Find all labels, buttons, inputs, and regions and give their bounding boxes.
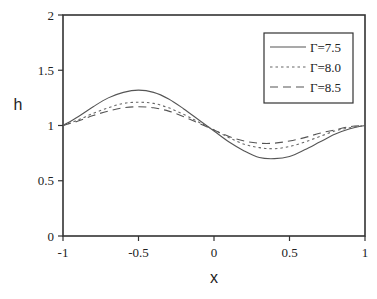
x-tick-label: 0.5 xyxy=(281,245,297,260)
y-tick-label: 0 xyxy=(48,229,55,244)
legend-label: Γ=8.0 xyxy=(310,60,341,75)
y-tick-label: 0.5 xyxy=(38,173,54,188)
y-axis-title: h xyxy=(14,96,23,113)
y-tick-label: 2 xyxy=(48,8,55,23)
x-tick-label: -1 xyxy=(58,245,69,260)
chart: -1-0.500.5100.511.52 x h Γ=7.5Γ=8.0Γ=8.5 xyxy=(0,0,377,299)
legend: Γ=7.5Γ=8.0Γ=8.5 xyxy=(264,33,353,103)
series-line-3 xyxy=(63,107,365,144)
y-tick-label: 1 xyxy=(48,118,55,133)
legend-label: Γ=7.5 xyxy=(310,40,341,55)
x-axis-title: x xyxy=(210,269,218,286)
x-tick-label: 0 xyxy=(211,245,218,260)
x-tick-label: 1 xyxy=(362,245,369,260)
y-tick-label: 1.5 xyxy=(38,63,54,78)
x-tick-label: -0.5 xyxy=(128,245,149,260)
legend-label: Γ=8.5 xyxy=(310,80,341,95)
